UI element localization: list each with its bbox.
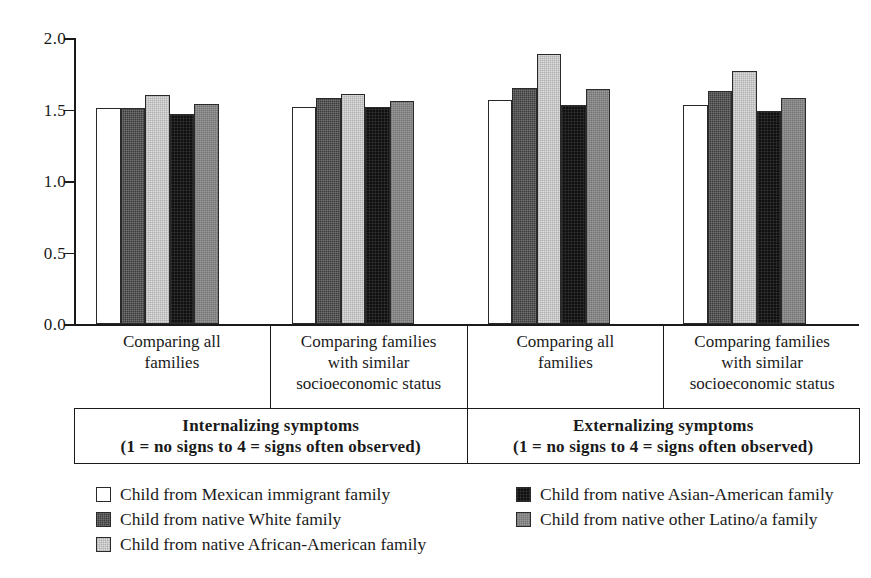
legend-swatch-icon [516,512,531,527]
category-label-cell: Comparing familieswith similarsocioecono… [663,325,860,408]
bar [194,104,219,324]
category-label: Comparing allfamilies [517,331,615,373]
legend-column-left: Child from Mexican immigrant familyChild… [96,482,426,557]
category-label-cell: Comparing familieswith similarsocioecono… [270,325,467,408]
bar [145,95,170,324]
bar-chart-figure: 2.01.51.00.50.0 Comparing allfamiliesCom… [0,0,871,578]
bar-group [272,38,468,324]
y-tick-label: 0.5 [18,244,66,261]
category-label: Comparing familieswith similarsocioecono… [690,331,835,394]
category-label-line: with similar [296,352,441,373]
bar-group [663,38,859,324]
chart-legend: Child from Mexican immigrant familyChild… [0,482,871,578]
y-axis-tick-labels: 2.01.51.00.50.0 [18,24,66,334]
category-label-line: socioeconomic status [296,373,441,394]
category-label-band: Comparing allfamiliesComparing familiesw… [74,325,860,408]
group-title-cell: Externalizing symptoms(1 = no signs to 4… [467,409,860,463]
group-title-sub: (1 = no signs to 4 = signs often observe… [513,436,813,457]
bar [121,108,146,324]
y-tick-mark [64,110,75,112]
legend-label: Child from native White family [120,510,341,529]
bar [390,101,415,324]
category-label-cell: Comparing allfamilies [74,325,270,408]
bar [586,89,611,324]
bar [757,111,782,324]
y-tick-label: 2.0 [18,30,66,47]
category-label-line: socioeconomic status [690,373,835,394]
y-tick-mark [64,38,75,40]
bar [488,100,513,325]
bar [781,98,806,324]
bar [316,98,341,324]
bar [170,114,195,324]
group-title-band: Internalizing symptoms(1 = no signs to 4… [74,408,860,464]
category-label-line: Comparing families [296,331,441,352]
bars-container [76,38,859,324]
category-label: Comparing familieswith similarsocioecono… [296,331,441,394]
category-label-line: Comparing all [123,331,221,352]
y-tick-label: 0.0 [18,316,66,333]
bar [732,71,757,324]
legend-swatch-icon [96,537,111,552]
category-label-cell: Comparing allfamilies [467,325,664,408]
bar [683,105,708,324]
plot-area: 2.01.51.00.50.0 Comparing allfamiliesCom… [0,0,871,470]
bar [96,108,121,324]
legend-swatch-icon [516,487,531,502]
category-label-line: families [517,352,615,373]
legend-item: Child from native White family [96,507,426,532]
legend-swatch-icon [96,487,111,502]
legend-column-right: Child from native Asian-American familyC… [516,482,834,532]
category-label-line: Comparing families [690,331,835,352]
y-tick-label: 1.0 [18,173,66,190]
category-label-line: Comparing all [517,331,615,352]
group-title-cell: Internalizing symptoms(1 = no signs to 4… [75,409,467,463]
bar [292,107,317,324]
group-title-main: Externalizing symptoms [573,415,754,436]
bar [365,107,390,324]
category-label-line: with similar [690,352,835,373]
legend-item: Child from Mexican immigrant family [96,482,426,507]
legend-label: Child from native African-American famil… [120,535,426,554]
legend-item: Child from native Asian-American family [516,482,834,507]
category-label-line: families [123,352,221,373]
legend-item: Child from native African-American famil… [96,532,426,557]
legend-label: Child from native other Latino/a family [540,510,818,529]
bar [512,88,537,324]
legend-item: Child from native other Latino/a family [516,507,834,532]
bar [708,91,733,324]
legend-swatch-icon [96,512,111,527]
y-tick-label: 1.5 [18,101,66,118]
legend-label: Child from Mexican immigrant family [120,485,390,504]
bar [537,54,562,324]
bar [341,94,366,324]
y-tick-mark [64,253,75,255]
legend-label: Child from native Asian-American family [540,485,834,504]
group-title-sub: (1 = no signs to 4 = signs often observe… [121,436,421,457]
bar [561,105,586,324]
category-label: Comparing allfamilies [123,331,221,373]
bar-group [468,38,664,324]
group-title-main: Internalizing symptoms [182,415,359,436]
bar-group [76,38,272,324]
y-tick-mark [64,181,75,183]
